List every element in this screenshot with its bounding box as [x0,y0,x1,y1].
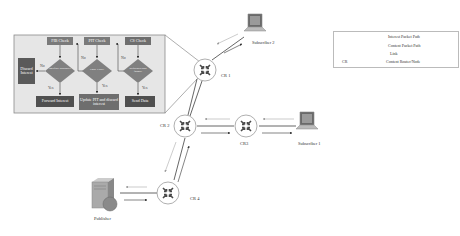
label-publisher: Publisher [94,216,111,221]
branch-no-3: No [121,56,126,60]
legend-cr-prefix: CR [342,59,347,64]
callout-line-top [165,35,200,62]
router-cr2 [174,115,196,137]
fib-check-box: FIB Check [47,37,73,45]
branch-no-1: No [40,64,45,68]
router-cr1 [194,59,216,81]
branch-no-2: No [81,56,86,60]
laptop-icon-subscriber1 [296,112,318,129]
update-pit-box: Update PIT and discard interest [79,94,119,110]
label-cr2: CR 2 [160,123,169,128]
label-subscriber1: Subscriber 1 [298,141,321,146]
decision-data-label: Requested data found? [127,67,149,73]
legend-link: Link [390,51,398,56]
label-cr3: CR3 [240,141,248,146]
branch-yes-3: Yes [142,86,148,90]
forward-interest-box: Forward Interest [36,96,74,107]
server-icon-publisher [92,178,117,211]
label-cr4: CR 4 [190,196,199,201]
laptop-icon-subscriber2 [244,14,266,31]
label-cr1: CR 1 [221,73,230,78]
router-cr4 [157,182,179,204]
branch-yes-2: Yes [102,84,108,88]
legend-content-router: Content Router/Node [386,59,420,64]
cs-check-box: CS Check [125,37,151,45]
legend-interest-path: Interest Packet Path [388,34,420,39]
legend-content-path: Content Packet Path [388,43,420,48]
decision-interface-label: Interface available? [49,67,71,70]
label-subscriber2: Subscriber 2 [252,40,275,45]
decision-entry-label: Entry Exist? [86,68,108,71]
router-cr3 [235,115,257,137]
branch-yes-1: Yes [48,86,54,90]
send-data-box: Send Data [125,96,155,107]
discard-interest-box: Discard Interest [18,58,35,84]
pit-check-box: PIT Check [84,37,110,45]
